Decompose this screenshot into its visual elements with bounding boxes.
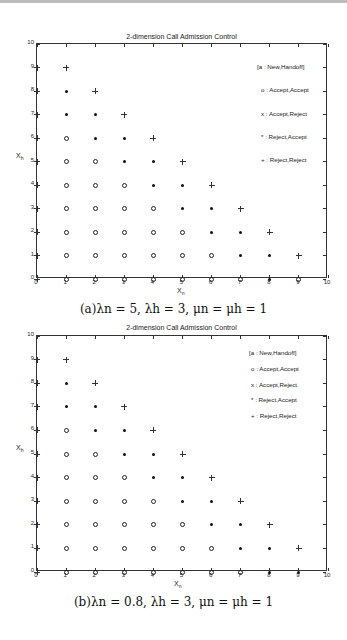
y-tick — [323, 454, 326, 455]
x-tick — [124, 336, 125, 339]
x-tick — [298, 336, 299, 339]
data-point-accept-accept — [91, 544, 99, 552]
data-point-accept-accept — [179, 544, 187, 552]
data-point-accept-accept — [62, 521, 70, 529]
data-point-accept-accept — [120, 497, 128, 505]
data-point-reject-accept — [266, 544, 274, 552]
y-tick — [323, 548, 326, 549]
x-tick-label: 7 — [234, 572, 246, 578]
data-point-reject-accept — [208, 497, 216, 505]
y-tick-label: 10 — [22, 331, 34, 337]
data-point-accept-accept — [149, 521, 157, 529]
data-point-accept-accept — [179, 521, 187, 529]
axis-point-marker — [33, 356, 41, 364]
data-point-accept-accept — [91, 497, 99, 505]
data-point-reject-accept — [208, 521, 216, 529]
y-tick — [323, 524, 326, 525]
x-tick — [182, 336, 183, 339]
data-point-accept-accept — [62, 426, 70, 434]
x-tick-label: 1 — [59, 572, 71, 578]
data-point-reject-accept — [149, 474, 157, 482]
y-tick-label: 7 — [22, 402, 34, 408]
data-point-reject-reject — [91, 379, 99, 387]
y-tick-label: 5 — [22, 449, 34, 455]
y-tick — [323, 477, 326, 478]
data-point-reject-accept — [179, 497, 187, 505]
legend-header: [a : New,Handoff] — [249, 349, 296, 356]
data-point-reject-reject — [295, 544, 303, 552]
y-tick — [323, 406, 326, 407]
legend-item-reject-accept: * : Reject,Accept — [251, 396, 297, 403]
x-tick-label: 2 — [88, 572, 100, 578]
y-tick-label: 6 — [22, 425, 34, 431]
data-point-reject-accept — [91, 403, 99, 411]
data-point-reject-reject — [120, 403, 128, 411]
y-tick-label: 4 — [22, 473, 34, 479]
y-tick-label: 2 — [22, 520, 34, 526]
legend-item-reject-reject: + : Reject,Reject — [251, 412, 297, 419]
data-point-accept-accept — [120, 544, 128, 552]
x-tick — [240, 336, 241, 339]
y-tick-label: 1 — [22, 543, 34, 549]
y-tick — [323, 336, 326, 337]
data-point-accept-accept — [120, 474, 128, 482]
y-tick — [323, 501, 326, 502]
y-tick-label: 9 — [22, 355, 34, 361]
data-point-reject-reject — [62, 356, 70, 364]
figure-b: 2-dimension Call Admission Control Xh Xn… — [0, 0, 347, 640]
x-tick — [153, 336, 154, 339]
x-tick — [211, 336, 212, 339]
data-point-accept-accept — [91, 521, 99, 529]
x-tick — [328, 336, 329, 339]
data-point-reject-accept — [237, 544, 245, 552]
y-tick-label: 3 — [22, 496, 34, 502]
x-tick-label: 5 — [176, 572, 188, 578]
data-point-reject-reject — [208, 474, 216, 482]
data-point-accept-accept — [149, 497, 157, 505]
x-tick — [269, 336, 270, 339]
y-tick — [323, 430, 326, 431]
data-point-accept-accept — [120, 521, 128, 529]
x-tick-label: 6 — [205, 572, 217, 578]
x-tick-label: 9 — [292, 572, 304, 578]
axis-point-marker — [33, 426, 41, 434]
axis-point-marker — [33, 403, 41, 411]
data-point-reject-reject — [179, 450, 187, 458]
data-point-accept-accept — [62, 474, 70, 482]
x-tick-label: 4 — [146, 572, 158, 578]
axis-point-marker — [33, 521, 41, 529]
x-tick-label: 3 — [117, 572, 129, 578]
data-point-accept-accept — [208, 544, 216, 552]
x-tick-label: 8 — [263, 572, 275, 578]
data-point-reject-accept — [149, 450, 157, 458]
axis-point-marker — [33, 450, 41, 458]
y-tick-label: 0 — [22, 567, 34, 573]
data-point-accept-accept — [91, 474, 99, 482]
axis-point-marker — [33, 544, 41, 552]
y-tick — [323, 383, 326, 384]
data-point-reject-accept — [179, 474, 187, 482]
axis-point-marker — [33, 474, 41, 482]
x-tick — [66, 336, 67, 339]
legend-item-accept-accept: o : Accept,Accept — [251, 365, 299, 372]
y-tick — [37, 336, 40, 337]
data-point-accept-accept — [62, 544, 70, 552]
data-point-reject-accept — [237, 521, 245, 529]
axis-point-marker — [33, 497, 41, 505]
y-tick — [323, 359, 326, 360]
data-point-reject-accept — [62, 379, 70, 387]
legend-item-accept-reject: x : Accept,Reject — [251, 381, 297, 388]
data-point-reject-reject — [266, 521, 274, 529]
data-point-accept-accept — [62, 450, 70, 458]
x-tick — [328, 568, 329, 571]
data-point-accept-accept — [62, 497, 70, 505]
caption: (b)λn = 0.8, λh = 3, μn = μh = 1 — [0, 595, 347, 609]
data-point-reject-accept — [120, 450, 128, 458]
axis-point-marker — [33, 379, 41, 387]
data-point-reject-accept — [62, 403, 70, 411]
data-point-reject-reject — [149, 426, 157, 434]
x-axis-label: Xn — [174, 580, 181, 589]
chart-title: 2-dimension Call Admission Control — [36, 324, 327, 331]
x-tick-label: 10 — [321, 572, 333, 578]
data-point-accept-accept — [91, 450, 99, 458]
